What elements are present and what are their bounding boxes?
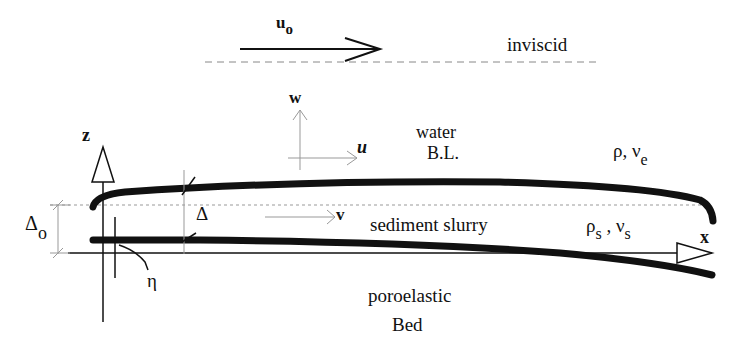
sediment-slurry-label: sediment slurry [370, 214, 488, 235]
x-axis-label: x [700, 227, 709, 247]
water-density-viscosity-label: ρ, νe [613, 140, 648, 168]
slurry-bed-interface-curve [93, 240, 712, 275]
eta-label: η [147, 270, 157, 291]
delta-label: Δ [196, 203, 208, 224]
velocity-axes-icon [288, 110, 357, 170]
slurry-density-viscosity-label: ρs , νs [586, 215, 631, 242]
poroelastic-label: poroelastic [368, 285, 451, 306]
z-axis-label: z [82, 125, 90, 145]
inviscid-label: inviscid [507, 34, 568, 55]
w-label: w [289, 88, 302, 107]
boundary-layer-label: B.L. [427, 143, 459, 163]
diagram: uo inviscid w u water B.L. ρ, νe x z Δo [0, 0, 732, 354]
z-axis-arrow-icon [92, 147, 114, 182]
v-label: v [336, 205, 345, 224]
slurry-velocity-arrow-icon [265, 210, 335, 224]
free-stream-arrow-icon [240, 38, 380, 61]
free-stream-velocity-label: uo [276, 13, 293, 37]
delta-o-label: Δo [25, 212, 47, 243]
bed-label: Bed [392, 314, 423, 335]
delta-o-dimension [50, 200, 70, 258]
u-label: u [357, 137, 367, 157]
water-label: water [416, 122, 456, 142]
eta-marker [115, 217, 148, 278]
